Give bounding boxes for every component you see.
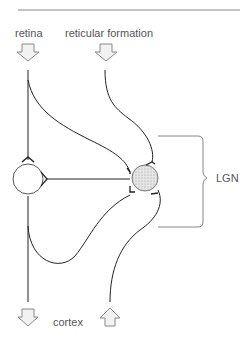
retina-label: retina (15, 27, 43, 39)
reticular-axon (105, 70, 153, 162)
lgn-bracket (158, 136, 207, 227)
lgn-circuit-diagram (0, 0, 252, 344)
interneuron (13, 164, 43, 194)
retina-input-arrow-icon (17, 44, 39, 61)
reticular-formation-label: reticular formation (65, 27, 153, 39)
relay-synapse-ur (146, 162, 155, 165)
cortex-label: cortex (53, 316, 83, 328)
retina-to-relay-axon (28, 80, 130, 172)
cortex-feedback-arrow-icon (100, 308, 120, 326)
relay-synapse-ll (130, 186, 135, 192)
cortex-output-arrow-icon (18, 309, 38, 326)
relay-synapse-lr (151, 193, 158, 194)
relay-output-axon (110, 190, 160, 302)
reticular-input-arrow-icon (95, 44, 117, 61)
interneuron-loop-axon (28, 195, 130, 263)
relay-cell (132, 165, 158, 191)
lgn-label: LGN (216, 172, 239, 184)
